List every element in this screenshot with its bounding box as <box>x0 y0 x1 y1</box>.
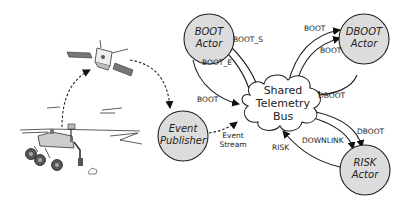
label-bus-dboot-1: BOOT <box>304 24 326 33</box>
system-diagram: BOOT Actor DBOOT Actor RISK Actor Event … <box>0 0 407 206</box>
bus-label-3: Bus <box>273 110 294 123</box>
label-risk-to-bus: RISK <box>272 143 290 152</box>
boot-actor-label-2: Actor <box>195 38 223 49</box>
boot-actor-label-1: BOOT <box>195 26 225 37</box>
telemetry-bus-cloud[interactable]: Shared Telemetry Bus <box>242 75 320 131</box>
event-publisher-node[interactable]: Event Publisher <box>158 111 208 161</box>
event-publisher-label-1: Event <box>169 123 199 134</box>
rover-to-satellite-path <box>62 70 90 127</box>
boot-actor-node[interactable]: BOOT Actor <box>184 14 234 64</box>
label-boot-to-bus: BOOT <box>197 95 219 104</box>
label-event-stream-1: Event <box>222 131 244 140</box>
dboot-actor-label-1: DBOOT <box>346 26 383 37</box>
label-boot-e: BOOT_E <box>202 58 232 67</box>
label-event-stream-2: Stream <box>219 140 246 149</box>
label-dboot-to-bus: DBOOT <box>318 91 346 100</box>
satellite-icon <box>67 40 133 76</box>
label-bus-dboot-2: BOOT <box>320 46 342 55</box>
dboot-actor-node[interactable]: DBOOT Actor <box>339 14 389 64</box>
satellite-to-publisher-path <box>130 60 170 108</box>
risk-actor-label-2: Actor <box>351 169 379 180</box>
label-downlink: DOWNLINK <box>302 136 345 145</box>
risk-actor-label-1: RISK <box>354 157 378 168</box>
bus-label-2: Telemetry <box>255 97 311 110</box>
bus-label-1: Shared <box>264 84 303 97</box>
dboot-actor-label-2: Actor <box>350 38 378 49</box>
label-boot-s: BOOT_S <box>233 35 263 44</box>
risk-actor-node[interactable]: RISK Actor <box>340 145 390 195</box>
rover-icon <box>20 107 142 174</box>
label-bus-risk-dboot: DBOOT <box>357 127 385 136</box>
event-publisher-label-2: Publisher <box>160 135 207 146</box>
